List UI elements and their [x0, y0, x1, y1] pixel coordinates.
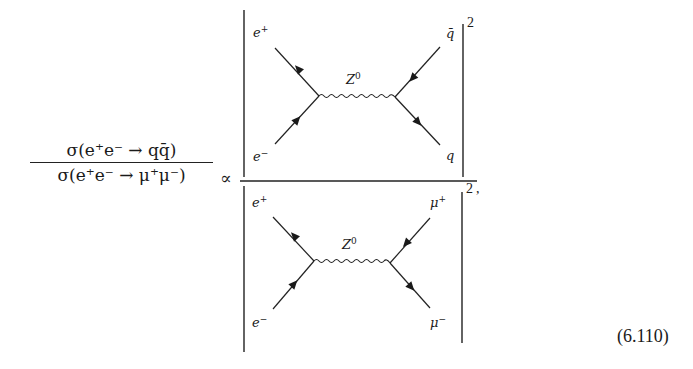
label-positron-bottom: e+: [252, 194, 267, 210]
feynman-diagrams: [0, 0, 693, 369]
label-muon-minus: μ−: [430, 314, 446, 330]
label-electron-bottom: e−: [252, 314, 267, 330]
label-antiquark: q̄: [446, 26, 454, 41]
label-positron-top: e+: [253, 24, 268, 40]
equation-number: (6.110): [617, 326, 669, 347]
label-electron-top: e−: [253, 148, 268, 164]
exponent-bottom: 2,: [466, 181, 480, 197]
label-muon-plus: μ+: [430, 194, 446, 210]
label-quark: q: [446, 148, 454, 163]
label-z-boson-bottom: Z0: [342, 236, 357, 252]
bottom-diagram: [273, 217, 430, 309]
exponent-top: 2: [467, 15, 474, 31]
label-z-boson-top: Z0: [346, 71, 361, 87]
top-diagram: [275, 47, 440, 145]
